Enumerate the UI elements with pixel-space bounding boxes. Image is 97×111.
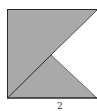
figure-caption: 2 [57, 101, 63, 111]
geometry-figure [0, 0, 97, 111]
